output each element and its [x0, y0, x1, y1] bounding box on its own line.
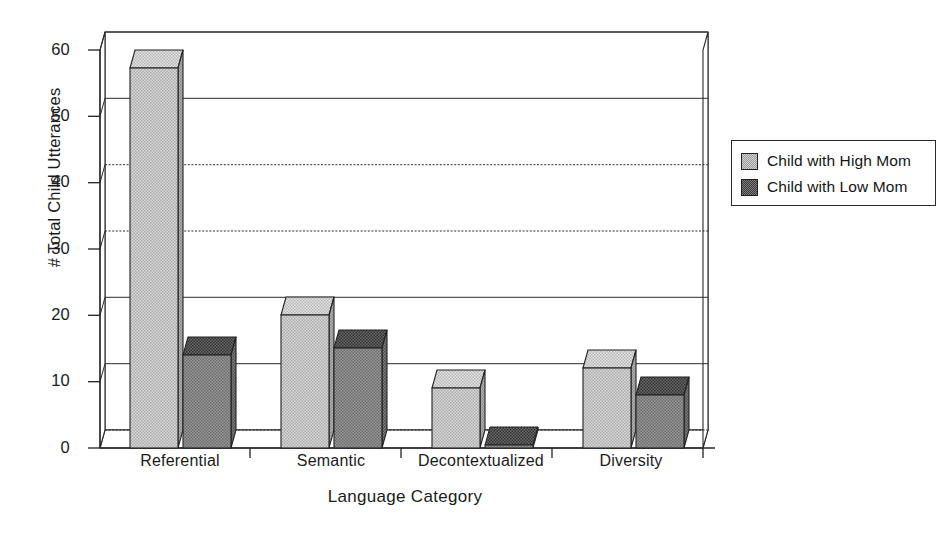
legend-swatch-high-mom-icon — [741, 153, 758, 170]
bar-diversity-low[interactable] — [636, 377, 689, 448]
bar-referential-high[interactable] — [130, 50, 183, 448]
bar-semantic-low[interactable] — [334, 330, 387, 448]
y-tick-label-60: 60 — [24, 40, 70, 59]
y-tick-label-0: 0 — [24, 438, 70, 457]
bar-semantic-high[interactable] — [281, 297, 334, 448]
chart-figure: # Total Child Utterances 60 50 40 30 20 … — [0, 0, 951, 535]
x-tick-label-diversity: Diversity — [556, 452, 706, 470]
y-tick-label-40: 40 — [24, 172, 70, 191]
x-tick-label-decontextualized: Decontextualized — [405, 452, 557, 470]
y-tick-label-10: 10 — [24, 371, 70, 390]
legend-item-high-mom[interactable]: Child with High Mom — [741, 148, 927, 174]
y-tick-label-20: 20 — [24, 305, 70, 324]
legend-swatch-low-mom-icon — [741, 179, 758, 196]
x-tick-label-semantic: Semantic — [256, 452, 406, 470]
legend-item-low-mom[interactable]: Child with Low Mom — [741, 174, 927, 200]
y-tick-label-30: 30 — [24, 239, 70, 258]
x-tick-label-referential: Referential — [105, 452, 255, 470]
legend-label-high-mom: Child with High Mom — [767, 152, 911, 170]
y-axis — [88, 50, 100, 448]
chart-legend: Child with High Mom Child with Low Mom — [731, 140, 936, 206]
bar-decontextualized-high[interactable] — [432, 370, 485, 448]
bar-diversity-high[interactable] — [583, 350, 636, 448]
bar-decontextualized-low[interactable] — [485, 427, 538, 448]
bar-referential-low[interactable] — [183, 337, 236, 448]
y-tick-label-50: 50 — [24, 106, 70, 125]
x-axis-title: Language Category — [100, 487, 710, 507]
legend-label-low-mom: Child with Low Mom — [767, 178, 907, 196]
